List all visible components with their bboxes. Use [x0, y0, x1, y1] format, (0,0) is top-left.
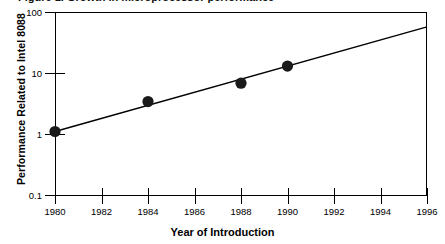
- chart-figure: Figure 1. Growth in microprocessor perfo…: [0, 0, 445, 244]
- data-point: [282, 60, 293, 71]
- data-layer: [0, 0, 445, 244]
- data-point: [142, 96, 153, 107]
- data-point: [49, 126, 60, 137]
- data-point: [235, 78, 246, 89]
